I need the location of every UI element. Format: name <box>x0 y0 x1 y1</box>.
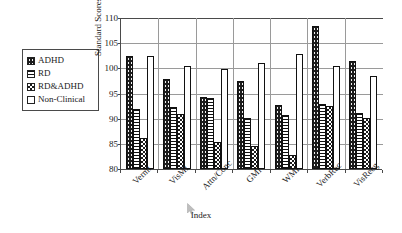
y-tick-label: 105 <box>105 39 119 48</box>
legend-item-label: RD <box>38 69 51 78</box>
bar-gmi-rd <box>244 118 251 169</box>
x-tick-mark <box>157 170 158 173</box>
bar-gmi-adhd <box>237 81 244 169</box>
x-axis-ticks: VermlVisMIAttn/ConcGMIWMIVerbRecVisRecg <box>120 170 382 210</box>
x-tick-mark <box>382 170 383 173</box>
legend-item-adhd: ADHD <box>27 54 95 67</box>
bar-visrecg-rd <box>356 113 363 169</box>
x-tick-mark <box>270 170 271 173</box>
bar-groups <box>121 18 382 169</box>
legend-item-label: RD&ADHD <box>38 82 84 91</box>
bar-verbrec-adhd <box>312 26 319 169</box>
x-tick-mark <box>307 170 308 173</box>
y-tick-label: 95 <box>109 89 118 98</box>
x-axis-title: Index <box>0 210 402 220</box>
x-tick-cell: WMI <box>270 170 307 210</box>
y-tick-label: 100 <box>105 64 119 73</box>
bar-group-vismi <box>158 18 195 169</box>
bar-verbrec-non-clinical <box>333 66 340 169</box>
bar-vismi-rd-adhd <box>177 114 184 169</box>
bar-visrecg-adhd <box>349 61 356 169</box>
x-tick-cell: VerbRec <box>307 170 344 210</box>
legend-item-rd-adhd: RD&ADHD <box>27 80 95 93</box>
bar-verbrec-rd-adhd <box>326 106 333 169</box>
bar-group-wmi <box>270 18 307 169</box>
horizontal-lines-swatch-icon <box>27 70 35 78</box>
bar-attn-conc-adhd <box>200 97 207 169</box>
bar-group-verml <box>121 18 158 169</box>
bar-vismi-non-clinical <box>184 66 191 169</box>
bar-wmi-rd <box>282 115 289 169</box>
bar-verml-rd <box>133 109 140 169</box>
x-tick-cell: Verml <box>120 170 157 210</box>
bar-attn-conc-non-clinical <box>221 69 228 169</box>
legend-item-rd: RD <box>27 67 95 80</box>
bar-vismi-adhd <box>163 79 170 169</box>
chart-legend: ADHD RD RD&ADHD Non-Clinical <box>22 49 99 111</box>
checkered-swatch-icon <box>27 83 35 91</box>
legend-item-non-clinical: Non-Clinical <box>27 93 95 106</box>
bar-group-visrecg <box>345 18 382 169</box>
y-tick-label: 85 <box>109 139 118 148</box>
bar-gmi-non-clinical <box>258 63 265 169</box>
y-axis-title: Standard Scores <box>93 0 103 56</box>
x-tick-cell: VisRecg <box>345 170 382 210</box>
bar-visrecg-rd-adhd <box>363 118 370 169</box>
bar-vismi-rd <box>170 107 177 169</box>
bar-group-verbrec <box>307 18 344 169</box>
y-tick-label: 80 <box>109 165 118 174</box>
y-tick-label: 90 <box>109 114 118 123</box>
white-swatch-icon <box>27 96 35 104</box>
legend-item-label: ADHD <box>38 56 64 65</box>
bar-wmi-non-clinical <box>296 54 303 169</box>
bar-wmi-adhd <box>275 105 282 169</box>
x-tick-mark <box>195 170 196 173</box>
x-tick-mark <box>232 170 233 173</box>
plot-area: 80859095100105110 <box>120 18 382 170</box>
x-tick-mark <box>345 170 346 173</box>
x-tick-cell: GMI <box>232 170 269 210</box>
y-tick-label: 110 <box>105 14 118 23</box>
legend-item-label: Non-Clinical <box>38 95 85 104</box>
bar-verml-adhd <box>126 56 133 169</box>
x-tick-cell: Attn/Conc <box>195 170 232 210</box>
bar-verbrec-rd <box>319 104 326 169</box>
x-tick-mark <box>120 170 121 173</box>
bar-group-attn-conc <box>196 18 233 169</box>
bar-attn-conc-rd <box>207 98 214 169</box>
bar-verml-non-clinical <box>147 56 154 169</box>
mouse-cursor-icon <box>187 203 196 215</box>
bar-visrecg-non-clinical <box>370 76 377 169</box>
black-dotted-swatch-icon <box>27 57 35 65</box>
bar-group-gmi <box>233 18 270 169</box>
